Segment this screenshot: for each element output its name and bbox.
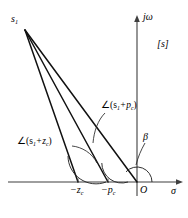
- label-beta: β: [143, 132, 148, 142]
- label-s-plane-tag: [s]: [157, 39, 169, 49]
- angle-arc-pole: [102, 163, 128, 183]
- angle-arc-beta: [126, 167, 152, 182]
- leader-line-angle-pole: [93, 113, 105, 143]
- label-imaginary-axis: jω: [143, 12, 153, 22]
- diagram-canvas: [0, 0, 188, 218]
- label-point-s1: s1: [11, 14, 18, 24]
- label-tick-minus-zc: −zc: [70, 185, 83, 195]
- s-plane-angle-diagram: s1 jω [s] ∠(s1+pc) β ∠(s1+zc) −zc −pc O …: [0, 0, 188, 218]
- label-angle-s1-plus-pc: ∠(s1+pc): [101, 101, 137, 111]
- real-axis-arrowhead: [176, 179, 183, 185]
- vector-s1-to-pole: [25, 30, 108, 182]
- imaginary-axis-arrowhead: [134, 15, 140, 22]
- label-origin: O: [140, 185, 147, 195]
- label-tick-minus-pc: −pc: [101, 185, 116, 195]
- label-real-axis: σ: [171, 186, 176, 196]
- label-angle-s1-plus-zc: ∠(s1+zc): [17, 137, 52, 147]
- vector-s1-to-zero: [25, 30, 78, 182]
